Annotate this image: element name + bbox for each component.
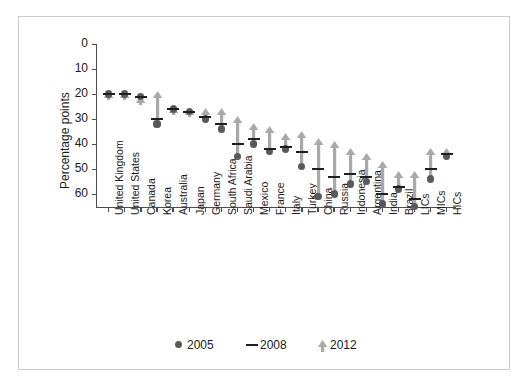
arrow-up-icon xyxy=(329,140,340,197)
data-point-2005 xyxy=(153,120,160,127)
data-point-2005 xyxy=(218,125,225,132)
data-point-2005 xyxy=(379,200,386,207)
x-axis-tick xyxy=(333,208,334,212)
data-point-2005 xyxy=(250,140,257,147)
data-point-2008 xyxy=(103,93,115,95)
data-point-2008 xyxy=(199,116,211,118)
x-axis-tick xyxy=(253,208,254,212)
x-tick-label-hics: HICs xyxy=(451,191,463,214)
x-axis-tick xyxy=(301,208,302,212)
x-tick-label-saudi-arabia: Saudi Arabia xyxy=(242,155,254,215)
data-point-2008 xyxy=(248,138,260,140)
data-point-2008 xyxy=(376,193,388,195)
x-tick-label-italy: Italy xyxy=(290,195,302,214)
y-tick-label: 0 xyxy=(60,36,88,50)
y-axis-tick xyxy=(92,69,96,70)
data-point-2008 xyxy=(119,93,131,95)
x-axis-tick xyxy=(269,208,270,212)
data-point-2005 xyxy=(363,178,370,185)
y-tick-label: 30 xyxy=(60,111,88,125)
y-axis-tick xyxy=(92,44,96,45)
y-axis-tick xyxy=(92,119,96,120)
figure-canvas: Percentage points 0102030405060United Ki… xyxy=(0,0,528,390)
x-axis-tick xyxy=(350,208,351,212)
x-axis-tick xyxy=(140,208,141,212)
y-axis-tick xyxy=(92,94,96,95)
x-axis-tick xyxy=(366,208,367,212)
data-point-2008 xyxy=(296,151,308,153)
y-axis-tick xyxy=(92,169,96,170)
y-axis-tick xyxy=(92,144,96,145)
data-point-2005 xyxy=(347,180,354,187)
data-point-2005 xyxy=(314,193,321,200)
data-point-2008 xyxy=(425,168,437,170)
data-point-2008 xyxy=(360,176,372,178)
data-point-2008 xyxy=(215,123,227,125)
x-tick-label-united-kingdom: United Kingdom xyxy=(113,140,125,215)
data-point-2008 xyxy=(135,96,147,98)
y-tick-label: 10 xyxy=(60,61,88,75)
data-point-2005 xyxy=(331,190,338,197)
x-axis-tick xyxy=(398,208,399,212)
data-point-2008 xyxy=(183,111,195,113)
x-axis-tick xyxy=(382,208,383,212)
x-axis-tick xyxy=(446,208,447,212)
data-point-2008 xyxy=(344,173,356,175)
x-axis-tick xyxy=(237,208,238,212)
x-tick-label-united-states: United States xyxy=(129,151,141,214)
arrow-up-icon xyxy=(377,160,388,207)
data-point-2008 xyxy=(393,186,405,188)
y-axis-line xyxy=(96,44,97,207)
data-point-2008 xyxy=(280,146,292,148)
y-tick-label: 50 xyxy=(60,161,88,175)
x-axis-tick xyxy=(285,208,286,212)
data-point-2008 xyxy=(409,198,421,200)
data-point-2008 xyxy=(441,153,453,155)
x-axis-tick xyxy=(156,208,157,212)
x-axis-tick xyxy=(317,208,318,212)
x-axis-tick xyxy=(221,208,222,212)
x-axis-tick xyxy=(205,208,206,212)
x-axis-tick xyxy=(108,208,109,212)
x-axis-tick xyxy=(189,208,190,212)
data-point-2008 xyxy=(167,108,179,110)
x-axis-tick xyxy=(430,208,431,212)
arrow-up-icon xyxy=(232,115,243,159)
y-tick-label: 60 xyxy=(60,186,88,200)
data-point-2005 xyxy=(427,175,434,182)
x-axis-tick xyxy=(124,208,125,212)
data-point-2008 xyxy=(312,168,324,170)
y-tick-label: 20 xyxy=(60,86,88,100)
y-axis-tick xyxy=(92,194,96,195)
y-tick-label: 40 xyxy=(60,136,88,150)
x-axis-tick xyxy=(172,208,173,212)
data-point-2008 xyxy=(264,148,276,150)
data-point-2008 xyxy=(328,176,340,178)
x-tick-label-south-africa: South Africa xyxy=(226,158,238,215)
data-point-2008 xyxy=(232,143,244,145)
data-point-2008 xyxy=(151,118,163,120)
